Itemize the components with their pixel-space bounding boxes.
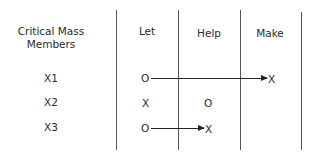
row2-help: O bbox=[204, 97, 212, 109]
divider-members-let bbox=[116, 10, 117, 150]
header-members-line2: Members bbox=[27, 38, 76, 50]
row1-make: X bbox=[268, 73, 275, 85]
row2-let: X bbox=[142, 97, 149, 109]
divider-help-make bbox=[240, 10, 241, 150]
row3-member: X3 bbox=[44, 121, 58, 133]
row3-help: X bbox=[205, 123, 212, 135]
header-help: Help bbox=[197, 27, 221, 39]
row2-member: X2 bbox=[44, 96, 58, 108]
divider-right bbox=[301, 12, 302, 150]
header-let: Let bbox=[139, 25, 155, 37]
row1-let: O bbox=[141, 72, 149, 84]
header-make: Make bbox=[256, 27, 284, 39]
header-members-line1: Critical Mass bbox=[18, 25, 85, 37]
divider-let-help bbox=[178, 10, 179, 150]
row1-member: X1 bbox=[44, 72, 58, 84]
arrow-let-to-help bbox=[151, 128, 204, 129]
row3-let: O bbox=[141, 122, 149, 134]
arrow-let-to-make bbox=[151, 78, 267, 79]
